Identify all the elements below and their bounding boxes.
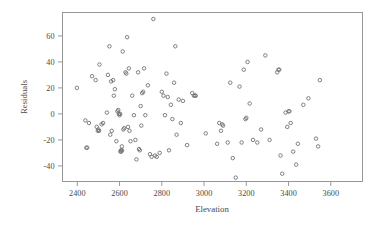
data-point <box>130 94 134 98</box>
y-axis-tick-labels: -40-200204060 <box>44 32 55 171</box>
data-point <box>162 94 166 98</box>
y-axis-title: Residuals <box>19 79 29 114</box>
y-tick-label: -20 <box>44 136 55 145</box>
data-point <box>185 143 189 147</box>
data-point <box>302 103 306 107</box>
data-point <box>238 85 242 89</box>
data-point <box>291 150 295 154</box>
data-point <box>240 141 244 145</box>
data-point <box>120 145 124 149</box>
data-point <box>215 142 219 146</box>
data-point <box>177 98 181 102</box>
data-point <box>142 67 146 71</box>
data-point <box>169 103 173 107</box>
data-point <box>251 138 255 142</box>
data-point <box>171 117 175 121</box>
data-point <box>126 125 129 128</box>
data-point <box>279 154 283 158</box>
data-point <box>179 121 183 125</box>
data-point <box>87 121 91 125</box>
data-point <box>121 50 125 54</box>
data-point <box>181 99 185 103</box>
x-axis-ticks <box>77 182 331 187</box>
data-point <box>167 149 171 153</box>
data-point <box>318 78 322 82</box>
data-point <box>115 139 119 143</box>
data-point <box>246 60 250 64</box>
x-tick-label: 3200 <box>238 189 254 198</box>
data-point <box>166 95 170 99</box>
data-point <box>112 94 116 98</box>
x-tick-label: 3600 <box>323 189 339 198</box>
data-point <box>165 72 169 76</box>
data-point <box>129 139 133 143</box>
data-point <box>296 142 300 146</box>
y-axis-ticks <box>58 36 63 166</box>
x-tick-label: 2400 <box>69 189 85 198</box>
data-point <box>231 156 235 160</box>
scatter-plot-figure: 2400260028003000320034003600 -40-2002040… <box>0 0 374 226</box>
data-point <box>158 151 162 155</box>
data-point <box>75 86 79 90</box>
x-axis-title: Elevation <box>195 204 229 214</box>
data-point <box>163 113 167 117</box>
data-point <box>113 87 117 91</box>
data-point <box>105 111 109 115</box>
data-point <box>307 97 311 101</box>
data-point <box>248 102 252 106</box>
data-point <box>152 17 156 21</box>
x-axis-tick-labels: 2400260028003000320034003600 <box>69 189 339 198</box>
data-point <box>139 104 143 108</box>
data-point <box>294 163 298 167</box>
data-point <box>242 68 246 72</box>
data-point <box>286 125 290 128</box>
y-tick-label: 0 <box>50 110 54 119</box>
data-point <box>280 172 284 176</box>
data-point <box>229 81 233 85</box>
data-point <box>144 113 148 117</box>
data-point <box>172 81 176 85</box>
data-point <box>125 35 128 39</box>
data-point <box>174 45 178 49</box>
x-tick-label: 3400 <box>280 189 296 198</box>
data-point <box>132 113 136 117</box>
data-point <box>268 138 272 142</box>
y-tick-label: -40 <box>44 162 55 171</box>
data-point <box>289 121 293 125</box>
data-point <box>146 84 150 88</box>
data-point <box>108 45 112 49</box>
data-point <box>136 71 140 75</box>
y-tick-label: 40 <box>46 58 54 67</box>
data-point <box>316 145 320 149</box>
data-point <box>140 124 144 128</box>
data-point <box>314 137 318 141</box>
data-point <box>94 78 98 82</box>
data-point <box>226 141 230 145</box>
data-point <box>175 133 179 137</box>
x-tick-label: 3000 <box>196 189 212 198</box>
data-point <box>219 129 223 133</box>
plot-frame <box>63 13 363 182</box>
x-tick-label: 2600 <box>111 189 127 198</box>
plot-canvas: 2400260028003000320034003600 -40-2002040… <box>0 0 374 226</box>
data-point <box>109 133 113 137</box>
data-point <box>264 54 268 58</box>
data-point <box>234 176 238 180</box>
y-tick-label: 60 <box>46 32 54 41</box>
data-point-group <box>75 17 321 179</box>
data-point <box>256 141 260 145</box>
x-tick-label: 2800 <box>154 189 170 198</box>
data-point <box>134 138 138 142</box>
y-tick-label: 20 <box>46 84 54 93</box>
data-point <box>90 74 94 78</box>
data-point <box>84 119 88 123</box>
data-point <box>259 128 263 132</box>
data-point <box>106 73 110 77</box>
data-point <box>135 158 139 162</box>
data-point <box>160 90 164 94</box>
data-point <box>98 63 102 67</box>
data-point <box>128 129 132 133</box>
data-point <box>127 67 131 71</box>
data-point <box>110 129 114 133</box>
data-point <box>204 132 208 136</box>
